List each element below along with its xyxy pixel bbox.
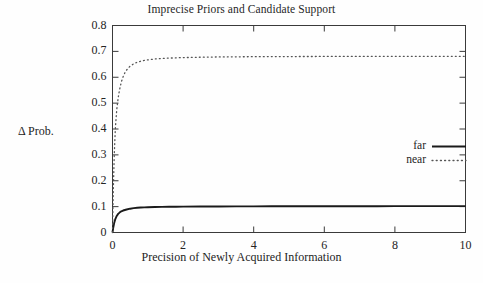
legend-label-near: near (370, 153, 426, 165)
x-tick-label: 6 (304, 238, 344, 253)
x-tick-label: 8 (375, 238, 415, 253)
y-tick-label: 0.5 (65, 95, 107, 110)
x-tick-label: 0 (93, 238, 133, 253)
legend-label-far: far (370, 139, 426, 151)
y-tick-label: 0.1 (65, 199, 107, 214)
y-tick-label: 0.2 (65, 173, 107, 188)
legend-line-samples (432, 147, 466, 161)
x-tick-label: 2 (163, 238, 203, 253)
y-tick-label: 0.4 (65, 121, 107, 136)
x-tick-label: 10 (446, 238, 483, 253)
y-tick-label: 0.6 (65, 69, 107, 84)
y-tick-label: 0.7 (65, 43, 107, 58)
y-tick-label: 0.3 (65, 147, 107, 162)
chart-figure: Imprecise Priors and Candidate Support Δ… (0, 0, 483, 283)
series-line-far (113, 206, 466, 232)
y-tick-label: 0.8 (65, 18, 107, 33)
x-tick-label: 4 (234, 238, 274, 253)
